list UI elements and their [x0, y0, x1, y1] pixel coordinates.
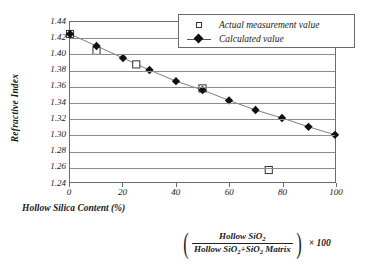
x-tick-mark: [229, 183, 230, 187]
y-tick-label: 1.28: [24, 146, 66, 155]
gridline: [70, 135, 335, 136]
data-point-calculated: [278, 114, 286, 122]
x-tick-label: 100: [316, 187, 356, 197]
legend-label-actual: Actual measurement value: [219, 20, 319, 31]
y-tick-label: 1.30: [24, 130, 66, 139]
data-point-calculated: [172, 77, 180, 85]
y-tick-label: 1.40: [24, 49, 66, 58]
gridline: [70, 119, 335, 120]
fraction-numerator: Hollow SiO2: [215, 231, 270, 243]
y-axis-tick-labels: 1.441.421.401.381.361.341.321.301.281.26…: [24, 16, 66, 189]
x-tick-mark: [283, 183, 284, 187]
x-axis-tick-labels: 020406080100: [69, 187, 336, 201]
data-point-calculated: [251, 106, 259, 114]
gridline: [70, 71, 335, 72]
y-tick-label: 1.42: [24, 33, 66, 42]
x-tick-mark: [336, 183, 337, 187]
x-tick-label: 60: [209, 187, 249, 197]
legend-item-calculated: Calculated value: [179, 32, 354, 46]
x-tick-label: 20: [102, 187, 142, 197]
y-tick-label: 1.32: [24, 114, 66, 123]
formula-caption: ( Hollow SiO2 Hollow SiO2+SiO2 Matrix ) …: [181, 230, 331, 256]
filled-diamond-icon: [179, 32, 219, 46]
refractive-index-chart: Refractive Index 1.441.421.401.381.361.3…: [0, 0, 371, 274]
x-tick-mark: [176, 183, 177, 187]
close-paren: ): [296, 230, 302, 256]
gridline: [70, 54, 335, 55]
data-point-actual: [133, 61, 140, 68]
x-tick-mark: [122, 183, 123, 187]
open-square-icon: [179, 18, 219, 32]
y-tick-label: 1.38: [24, 65, 66, 74]
gridline: [70, 168, 335, 169]
gridline: [70, 103, 335, 104]
legend-item-actual: Actual measurement value: [179, 18, 354, 32]
gridline: [70, 87, 335, 88]
data-point-calculated: [304, 123, 312, 131]
x-axis-label: Hollow Silica Content (%): [22, 203, 125, 213]
x-tick-mark: [69, 183, 70, 187]
legend-label-calculated: Calculated value: [219, 34, 284, 45]
x-tick-label: 80: [263, 187, 303, 197]
y-tick-label: 1.36: [24, 81, 66, 90]
fraction-denominator: Hollow SiO2+SiO2 Matrix: [192, 244, 293, 256]
multiplier-text: × 100: [309, 238, 331, 248]
open-paren: (: [183, 230, 189, 256]
y-tick-label: 1.26: [24, 162, 66, 171]
fraction: Hollow SiO2 Hollow SiO2+SiO2 Matrix: [192, 231, 293, 255]
y-tick-label: 1.44: [24, 17, 66, 26]
x-tick-label: 0: [49, 187, 89, 197]
x-tick-label: 40: [156, 187, 196, 197]
y-tick-label: 1.34: [24, 98, 66, 107]
gridline: [70, 152, 335, 153]
y-axis-label: Refractive Index: [10, 48, 20, 168]
chart-legend: Actual measurement value Calculated valu…: [178, 14, 355, 48]
